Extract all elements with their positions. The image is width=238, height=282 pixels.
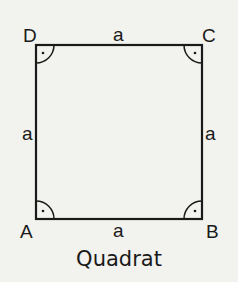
side-right-label: a bbox=[205, 123, 216, 144]
vertex-c-label: C bbox=[202, 25, 216, 46]
side-top-label: a bbox=[113, 24, 124, 45]
square-shape bbox=[36, 45, 202, 219]
square-diagram: D C A B a a a a Quadrat bbox=[0, 0, 238, 282]
right-angle-marker-b bbox=[184, 201, 202, 219]
vertex-d-label: D bbox=[23, 25, 37, 46]
right-angle-marker-c bbox=[184, 45, 202, 63]
side-bottom-label: a bbox=[113, 220, 124, 241]
right-angle-marker-a bbox=[36, 201, 54, 219]
right-angle-marker-d bbox=[36, 45, 54, 63]
vertex-b-label: B bbox=[206, 221, 219, 242]
figure-caption: Quadrat bbox=[76, 247, 162, 271]
vertex-a-label: A bbox=[20, 221, 33, 242]
side-left-label: a bbox=[22, 123, 33, 144]
